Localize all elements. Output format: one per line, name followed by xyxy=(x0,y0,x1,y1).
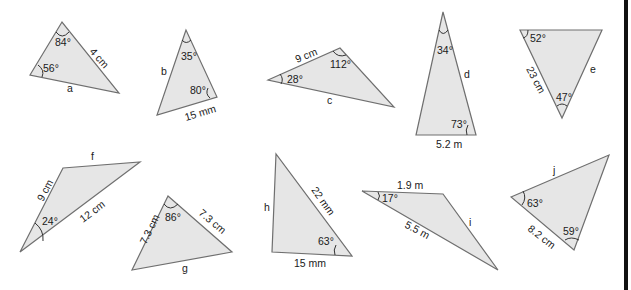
triangle-g: 86° 7.3 cm 7.3 cm g xyxy=(132,196,232,274)
triangle-j: 63° 59° j 8.2 cm xyxy=(511,155,609,251)
angle-label: 63° xyxy=(318,235,334,247)
angle-label: 52° xyxy=(530,32,546,44)
angle-label: 112° xyxy=(330,58,351,70)
unknown-label: a xyxy=(67,82,73,94)
angle-label: 35° xyxy=(181,50,197,62)
angle-label: 34° xyxy=(437,44,453,56)
angle-label: 73° xyxy=(451,118,467,130)
triangle-h: 63° h 22 mm 15 mm xyxy=(264,154,352,269)
unknown-label: j xyxy=(552,164,555,176)
triangle-f: 24° f 9 cm 12 cm xyxy=(20,150,140,252)
triangle-a: 84° 56° 4 cm a xyxy=(30,22,119,94)
angle-label: 24° xyxy=(42,215,58,227)
unknown-label: d xyxy=(464,68,470,80)
unknown-label: i xyxy=(469,216,471,228)
unknown-label: c xyxy=(327,94,332,106)
angle-label: 28° xyxy=(287,73,303,85)
triangle-worksheet: 84° 56° 4 cm a 35° 80° b 15 mm 28° 112° … xyxy=(0,0,631,290)
angle-label: 17° xyxy=(382,192,398,204)
right-border xyxy=(624,0,628,290)
angle-label: 63° xyxy=(527,197,543,209)
angle-label: 56° xyxy=(43,62,59,74)
unknown-label: f xyxy=(91,150,94,162)
triangle-d: 34° 73° d 5.2 m xyxy=(416,12,476,150)
triangle-c: 28° 112° 9 cm c xyxy=(268,45,394,107)
unknown-label: g xyxy=(182,262,188,274)
angle-label: 47° xyxy=(556,91,572,103)
triangle-e: 52° 47° e 23 cm xyxy=(520,30,602,118)
angle-label: 59° xyxy=(563,225,579,237)
angle-label: 84° xyxy=(55,36,71,48)
unknown-label: e xyxy=(590,63,596,75)
angle-label: 86° xyxy=(165,211,181,223)
triangle-i: 17° 1.9 m 5.5 m i xyxy=(362,179,498,270)
angle-label: 80° xyxy=(190,84,206,96)
unknown-label: h xyxy=(264,201,270,213)
side-label: 1.9 m xyxy=(397,179,424,191)
unknown-label: b xyxy=(161,65,167,77)
side-label: 5.2 m xyxy=(436,138,463,150)
triangle-b: 35° 80° b 15 mm xyxy=(157,30,218,123)
side-label: 15 mm xyxy=(294,257,326,269)
